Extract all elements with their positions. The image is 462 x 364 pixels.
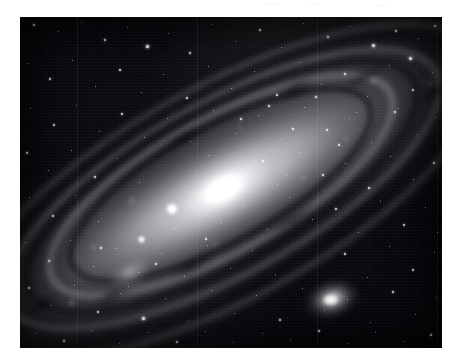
star (233, 342, 234, 343)
star (33, 24, 35, 26)
star (189, 52, 191, 54)
star (367, 277, 368, 278)
star (370, 322, 371, 323)
star (127, 27, 128, 28)
star (212, 24, 213, 25)
scan-artifact (376, 4, 389, 7)
star (95, 86, 96, 87)
star (146, 45, 149, 48)
star (279, 319, 281, 321)
star (236, 41, 237, 42)
star (58, 31, 59, 32)
star (141, 92, 142, 93)
star (81, 22, 82, 23)
star (168, 33, 169, 34)
star (119, 69, 121, 71)
companion-galaxy-m32-core (322, 294, 339, 306)
star (49, 78, 51, 80)
star (27, 63, 28, 64)
star (318, 330, 320, 332)
star (290, 340, 291, 341)
star (412, 269, 414, 271)
star (262, 333, 263, 334)
star (375, 332, 376, 333)
star (437, 232, 438, 233)
star (347, 343, 348, 344)
star (430, 334, 432, 336)
scan-artifact (265, 3, 279, 6)
astrophotograph-image (20, 17, 442, 348)
star (30, 108, 31, 109)
star (26, 152, 28, 154)
star (53, 124, 55, 126)
star (404, 341, 405, 342)
star (163, 74, 164, 75)
star (415, 314, 416, 315)
scan-artifact (306, 2, 322, 5)
star (389, 246, 390, 247)
star (259, 29, 261, 31)
star (425, 207, 426, 208)
star (104, 39, 106, 41)
secondary-foreground-star (137, 235, 146, 244)
star (76, 105, 77, 106)
star (303, 23, 304, 24)
star (434, 252, 435, 253)
screenshot-canvas: Andromeda Galaxy (M31) astrophotograph (0, 0, 462, 364)
star (436, 297, 437, 298)
star (403, 224, 405, 226)
star (392, 291, 394, 293)
star (72, 60, 73, 61)
bright-foreground-star (164, 201, 180, 217)
